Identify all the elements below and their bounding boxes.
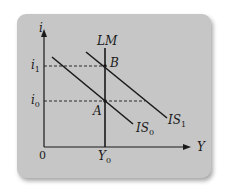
i0-tick-label: i0 [31,93,40,109]
point-b-label: B [109,56,119,70]
i1-tick-sub: 1 [35,65,40,74]
point-a-label: A [92,104,102,118]
y-axis-label: i [39,21,43,35]
origin-label: 0 [39,149,46,162]
x-axis-arrow-icon [183,144,191,150]
is1-label: IS1 [167,113,186,129]
is1-label-main: IS [167,113,181,127]
lm-label: LM [96,34,118,48]
y0-tick-label: Y0 [98,149,111,165]
i0-tick-sub: 0 [35,100,40,109]
is0-label-sub: 0 [149,128,154,137]
point-b-marker [103,64,107,68]
i1-tick-label: i1 [31,58,40,74]
is0-label-main: IS [135,121,149,135]
is0-label: IS0 [135,121,154,137]
is1-label-sub: 1 [181,120,186,129]
is-lm-diagram: i Y 0 LM B A IS0 IS1 i1 i0 Y0 [0,0,228,193]
y0-tick-sub: 0 [106,156,111,165]
point-a-marker [103,99,107,103]
x-axis-label: Y [197,140,206,154]
